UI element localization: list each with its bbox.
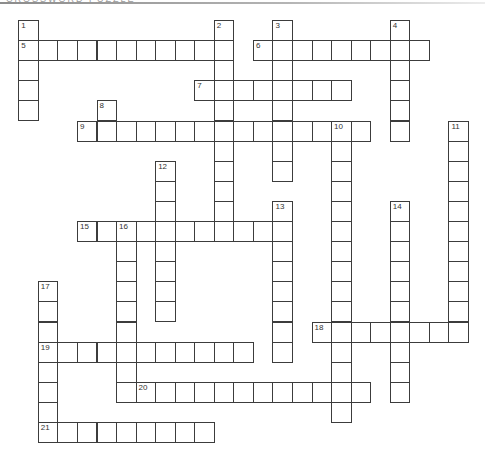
grid-cell[interactable]	[214, 161, 235, 182]
grid-cell[interactable]	[175, 382, 196, 403]
grid-cell[interactable]	[155, 241, 176, 262]
grid-cell[interactable]	[272, 342, 293, 363]
grid-cell[interactable]	[57, 422, 78, 443]
grid-cell[interactable]	[272, 40, 293, 61]
grid-cell[interactable]	[77, 40, 98, 61]
grid-cell[interactable]	[331, 141, 352, 162]
grid-cell[interactable]	[194, 422, 215, 443]
grid-cell[interactable]	[390, 281, 411, 302]
grid-cell[interactable]: 5	[18, 40, 39, 61]
grid-cell[interactable]	[331, 322, 352, 343]
grid-cell[interactable]: 1	[18, 20, 39, 41]
grid-cell[interactable]	[18, 60, 39, 81]
grid-cell[interactable]	[331, 181, 352, 202]
grid-cell[interactable]	[370, 40, 391, 61]
grid-cell[interactable]	[253, 80, 274, 101]
grid-cell[interactable]	[175, 40, 196, 61]
grid-cell[interactable]	[331, 80, 352, 101]
grid-cell[interactable]	[390, 121, 411, 142]
grid-cell[interactable]	[194, 121, 215, 142]
grid-cell[interactable]	[409, 322, 430, 343]
grid-cell[interactable]	[136, 121, 157, 142]
grid-cell[interactable]	[214, 121, 235, 142]
grid-cell[interactable]	[272, 221, 293, 242]
grid-cell[interactable]	[292, 121, 313, 142]
grid-cell[interactable]: 20	[136, 382, 157, 403]
grid-cell[interactable]	[214, 40, 235, 61]
grid-cell[interactable]	[390, 382, 411, 403]
grid-cell[interactable]	[38, 301, 59, 322]
grid-cell[interactable]	[233, 382, 254, 403]
grid-cell[interactable]	[390, 301, 411, 322]
grid-cell[interactable]	[155, 201, 176, 222]
grid-cell[interactable]	[272, 382, 293, 403]
grid-cell[interactable]	[272, 241, 293, 262]
grid-cell[interactable]	[97, 40, 118, 61]
grid-cell[interactable]	[155, 181, 176, 202]
grid-cell[interactable]	[448, 301, 469, 322]
grid-cell[interactable]	[116, 301, 137, 322]
grid-cell[interactable]	[331, 201, 352, 222]
grid-cell[interactable]	[155, 382, 176, 403]
grid-cell[interactable]	[272, 322, 293, 343]
grid-cell[interactable]	[116, 40, 137, 61]
grid-cell[interactable]	[136, 40, 157, 61]
grid-cell[interactable]	[175, 221, 196, 242]
grid-cell[interactable]	[448, 261, 469, 282]
grid-cell[interactable]	[351, 40, 372, 61]
grid-cell[interactable]	[233, 121, 254, 142]
grid-cell[interactable]	[214, 141, 235, 162]
grid-cell[interactable]	[312, 40, 333, 61]
grid-cell[interactable]	[97, 121, 118, 142]
grid-cell[interactable]: 7	[194, 80, 215, 101]
grid-cell[interactable]	[233, 342, 254, 363]
grid-cell[interactable]	[429, 322, 450, 343]
grid-cell[interactable]	[331, 40, 352, 61]
grid-cell[interactable]	[38, 402, 59, 423]
grid-cell[interactable]	[272, 100, 293, 121]
grid-cell[interactable]	[448, 221, 469, 242]
grid-cell[interactable]: 10	[331, 121, 352, 142]
grid-cell[interactable]	[292, 40, 313, 61]
grid-cell[interactable]	[97, 422, 118, 443]
grid-cell[interactable]	[116, 422, 137, 443]
grid-cell[interactable]: 18	[312, 322, 333, 343]
grid-cell[interactable]	[175, 422, 196, 443]
grid-cell[interactable]: 19	[38, 342, 59, 363]
grid-cell[interactable]	[331, 161, 352, 182]
grid-cell[interactable]	[116, 382, 137, 403]
grid-cell[interactable]	[214, 382, 235, 403]
grid-cell[interactable]	[214, 100, 235, 121]
grid-cell[interactable]	[448, 181, 469, 202]
grid-cell[interactable]	[331, 281, 352, 302]
grid-cell[interactable]	[272, 80, 293, 101]
grid-cell[interactable]	[390, 322, 411, 343]
grid-cell[interactable]	[331, 362, 352, 383]
grid-cell[interactable]	[18, 80, 39, 101]
grid-cell[interactable]	[331, 402, 352, 423]
grid-cell[interactable]	[272, 60, 293, 81]
grid-cell[interactable]	[155, 121, 176, 142]
grid-cell[interactable]	[448, 241, 469, 262]
grid-cell[interactable]	[272, 261, 293, 282]
grid-cell[interactable]	[331, 301, 352, 322]
grid-cell[interactable]	[312, 121, 333, 142]
grid-cell[interactable]	[155, 301, 176, 322]
grid-cell[interactable]	[175, 342, 196, 363]
grid-cell[interactable]: 13	[272, 201, 293, 222]
grid-cell[interactable]	[390, 342, 411, 363]
grid-cell[interactable]	[331, 241, 352, 262]
grid-cell[interactable]	[116, 241, 137, 262]
grid-cell[interactable]	[272, 301, 293, 322]
grid-cell[interactable]	[214, 80, 235, 101]
grid-cell[interactable]	[214, 181, 235, 202]
grid-cell[interactable]	[97, 221, 118, 242]
grid-cell[interactable]	[116, 362, 137, 383]
grid-cell[interactable]	[38, 362, 59, 383]
grid-cell[interactable]	[351, 382, 372, 403]
grid-cell[interactable]	[272, 121, 293, 142]
grid-cell[interactable]	[272, 141, 293, 162]
grid-cell[interactable]	[77, 422, 98, 443]
grid-cell[interactable]: 2	[214, 20, 235, 41]
grid-cell[interactable]	[136, 342, 157, 363]
